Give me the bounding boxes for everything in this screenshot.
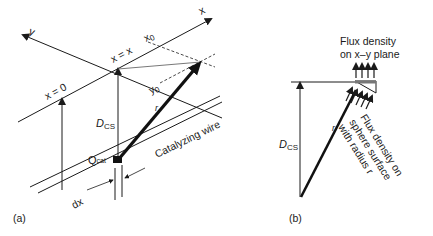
x-axis [18, 19, 211, 122]
y0-label: y0 [146, 80, 162, 97]
dx-label: dx [69, 195, 85, 211]
x0-label: x0 [141, 28, 157, 45]
flux-arrows-vertical [356, 64, 374, 78]
dcs-label: DCS [96, 117, 115, 131]
x-axis-label: x [196, 3, 207, 16]
x-eq-0-label: x = 0 [42, 80, 68, 101]
panel-a-label: (a) [13, 212, 26, 224]
diagram: x y x = x x = 0 x0 y0 r DCS Qcat Catalyz… [0, 0, 433, 236]
panel-a: x y x = x x = 0 x0 y0 r DCS Qcat Catalyz… [13, 3, 222, 224]
y-axis-label: y [27, 25, 37, 38]
flux-plane-label-line2: on x–y plane [340, 48, 400, 60]
flux-plane-label-line1: Flux density [340, 35, 397, 47]
flux-arrows-radial [346, 88, 372, 109]
qcat-point [113, 156, 122, 163]
panel-b: Flux density on x–y plane Flux density o… [279, 35, 406, 224]
wire-label: Catalyzing wire [153, 118, 222, 160]
panel-b-label: (b) [289, 212, 302, 224]
dcs-label-b: DCS [279, 138, 298, 152]
